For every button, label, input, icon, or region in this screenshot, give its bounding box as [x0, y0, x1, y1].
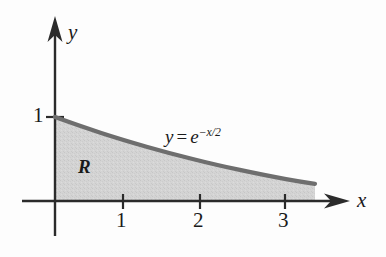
region-label-R: R [78, 157, 91, 176]
y-tick-label-1: 1 [33, 105, 44, 126]
x-axis-label: x [357, 190, 366, 211]
y-axis-label: y [68, 22, 77, 43]
equation-equals: = [173, 126, 190, 147]
exponent-sign: − [199, 126, 207, 139]
x-tick-label-2: 2 [193, 210, 204, 231]
equation-exponent: −x/2 [199, 126, 221, 139]
math-figure: y x 1 1 2 3 R y=e−x/2 [0, 0, 386, 257]
curve-equation-label: y=e−x/2 [165, 127, 221, 146]
equation-base: e [190, 126, 198, 147]
x-tick-label-1: 1 [116, 210, 127, 231]
exponent-denominator: 2 [215, 126, 221, 139]
x-tick-label-3: 3 [278, 210, 289, 231]
